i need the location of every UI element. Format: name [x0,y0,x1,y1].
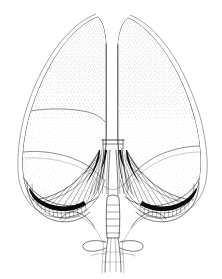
anatomical-figure: Lungs and Diaphragm, Anterior View Right… [0,0,222,279]
trachea-tube [106,195,120,238]
lungs-diaphragm-drawing [0,0,222,279]
